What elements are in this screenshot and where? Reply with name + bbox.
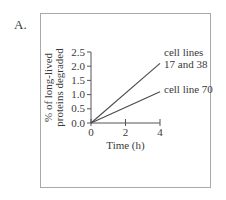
y-tick-label: 1.0: [71, 88, 85, 100]
x-tick-label: 4: [157, 126, 163, 138]
line-chart: 0.00.51.01.52.02.5024 Time (h)% of long-…: [0, 0, 226, 200]
y-axis-title: proteins degraded: [53, 48, 65, 127]
x-tick-label: 0: [88, 126, 94, 138]
x-axis-title: Time (h): [106, 139, 145, 152]
series-label: cell line 70: [164, 83, 213, 95]
series-line: [91, 92, 160, 123]
chart-series: [91, 63, 160, 123]
chart-axes: 0.00.51.01.52.02.5024: [71, 46, 163, 139]
y-tick-label: 2.0: [71, 60, 85, 72]
x-tick-label: 2: [123, 126, 129, 138]
series-line: [91, 63, 160, 123]
y-tick-label: 2.5: [71, 46, 85, 58]
series-label: cell lines: [164, 46, 203, 58]
y-tick-label: 1.5: [71, 74, 85, 86]
series-label: 17 and 38: [164, 58, 208, 70]
y-tick-label: 0.0: [71, 117, 85, 129]
y-tick-label: 0.5: [71, 102, 85, 114]
